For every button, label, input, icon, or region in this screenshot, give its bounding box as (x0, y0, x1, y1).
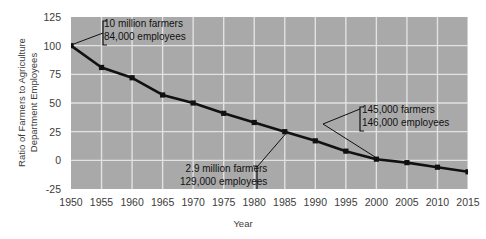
chart-figure: Ratio of Farmers to Agriculture Departme… (0, 0, 486, 239)
data-point-1985 (282, 129, 287, 134)
leader-1985 (257, 134, 286, 167)
data-point-1960 (129, 75, 134, 80)
y-tick--25: -25 (21, 183, 61, 195)
y-tick-25: 25 (21, 126, 61, 138)
annotation-1950: 10 million farmers 84,000 employees (104, 18, 186, 43)
x-axis-label: Year (0, 218, 486, 229)
data-point-1955 (99, 65, 104, 70)
data-point-1990 (313, 138, 318, 143)
leader-2000-a (323, 109, 360, 124)
data-point-1995 (343, 149, 348, 154)
y-tick-75: 75 (21, 68, 61, 80)
annotation-2000-line2: 146,000 employees (362, 117, 449, 130)
x-axis-tick-labels: 1950195519601965197019751980198519901995… (0, 196, 486, 212)
y-tick-0: 0 (21, 154, 61, 166)
y-tick-100: 100 (21, 40, 61, 52)
data-point-2000 (374, 157, 379, 162)
y-tick-50: 50 (21, 97, 61, 109)
annotation-1985: 2.9 million farmers 129,000 employees (180, 163, 267, 188)
annotation-2000: 145,000 farmers 146,000 employees (362, 104, 449, 129)
annotation-1985-line1: 2.9 million farmers (180, 163, 267, 176)
annotation-1985-line2: 129,000 employees (180, 176, 267, 189)
y-tick-125: 125 (21, 11, 61, 23)
data-point-2010 (435, 165, 440, 170)
annotation-1950-line1: 10 million farmers (104, 18, 186, 31)
annotation-1950-line2: 84,000 employees (104, 31, 186, 44)
annotation-2000-line1: 145,000 farmers (362, 104, 449, 117)
data-point-2015 (465, 169, 468, 174)
data-point-1975 (221, 111, 226, 116)
data-point-1965 (160, 92, 165, 97)
data-point-1970 (191, 100, 196, 105)
data-point-1980 (252, 120, 257, 125)
leader-1950 (72, 33, 103, 45)
data-point-2005 (404, 160, 409, 165)
x-tick-2015: 2015 (448, 196, 486, 208)
